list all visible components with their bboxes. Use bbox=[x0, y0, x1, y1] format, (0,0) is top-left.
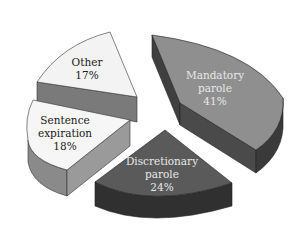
label-sentence-line1: Sentence bbox=[40, 114, 89, 126]
label-discretionary-pct: 24% bbox=[150, 181, 173, 193]
label-mandatory-line1: Mandatory bbox=[186, 69, 244, 81]
label-other-pct: 17% bbox=[75, 69, 98, 81]
label-discretionary-line2: parole bbox=[145, 168, 179, 180]
label-sentence-line2: expiration bbox=[38, 127, 92, 139]
label-discretionary-line1: Discretionary bbox=[126, 155, 198, 167]
label-mandatory-pct: 41% bbox=[203, 95, 226, 107]
label-other-name: Other bbox=[72, 56, 104, 68]
pie-chart-canvas: Other 17% Sentence expiration 18% Mandat… bbox=[0, 0, 305, 242]
label-mandatory-line2: parole bbox=[198, 82, 232, 94]
label-sentence-pct: 18% bbox=[53, 140, 76, 152]
pie-chart: Other 17% Sentence expiration 18% Mandat… bbox=[0, 0, 305, 242]
label-other: Other 17% bbox=[72, 56, 104, 81]
